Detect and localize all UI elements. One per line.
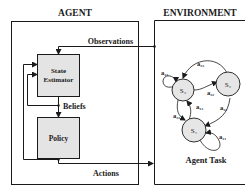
observations-arrow	[59, 47, 155, 55]
transition-a13-arrow	[187, 101, 191, 120]
agent-task-caption: Agent Task	[186, 155, 227, 165]
environment-title: ENVIRONMENT	[163, 8, 237, 18]
agent-environment-diagram: AGENT ENVIRONMENT Observations State Est…	[0, 0, 252, 195]
state-estimator-label-line1: State	[51, 67, 66, 75]
actions-label: Actions	[93, 169, 119, 178]
policy-label: Policy	[49, 134, 69, 143]
transition-a33-label: a₃₃	[161, 69, 168, 76]
state-s2-label: S₂	[225, 81, 232, 89]
transition-a13-label: a₁₃	[196, 103, 203, 110]
state-s1-label: S₁	[191, 127, 197, 135]
transition-a12-arrow	[205, 98, 230, 126]
observations-junction-dot	[153, 45, 156, 48]
transition-a32-label: a₃₂	[207, 89, 214, 96]
transition-a11-label: a₁₁	[219, 133, 226, 140]
beliefs-label: Beliefs	[63, 102, 86, 111]
transition-a12-label: a₁₂	[220, 104, 227, 111]
transition-a23-label: a₂₃	[197, 60, 204, 67]
state-s3-label: S₃	[180, 87, 187, 95]
state-estimator-label-line2: Estimator	[44, 76, 74, 84]
agent-title: AGENT	[58, 8, 92, 18]
transition-a31-label: a₃₁	[173, 112, 180, 119]
observations-label: Observations	[88, 37, 133, 46]
